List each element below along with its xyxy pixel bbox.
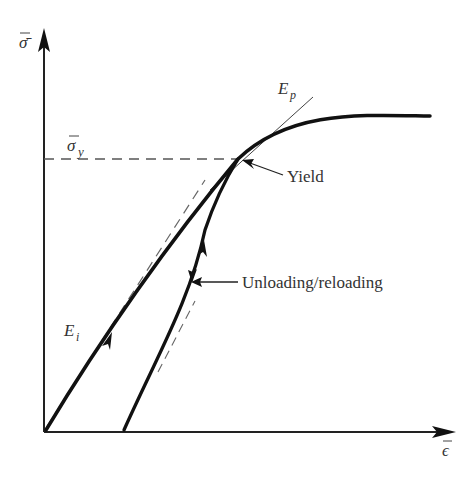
- ep-label: E p: [277, 79, 296, 102]
- x-axis-label: ϵ: [442, 441, 452, 460]
- unloading-reloading-curve: [124, 159, 238, 430]
- unloading-label: Unloading/reloading: [242, 273, 383, 292]
- svg-text:y: y: [76, 144, 84, 159]
- sigma-y-label: σ y: [67, 136, 84, 159]
- yield-label: Yield: [287, 167, 324, 186]
- svg-text:σ̄: σ̄: [19, 33, 32, 52]
- svg-text:i: i: [76, 330, 79, 344]
- svg-text:ϵ: ϵ: [442, 441, 450, 460]
- y-axis-label: σ̄: [19, 33, 32, 52]
- stress-strain-diagram: σ̄ ϵ σ y E p E i Yield Unloading/reloadi…: [0, 0, 464, 477]
- svg-text:p: p: [289, 88, 296, 102]
- unloading-tangent-dashed-line: [158, 301, 195, 372]
- svg-text:E: E: [63, 321, 75, 340]
- svg-text:E: E: [277, 79, 289, 98]
- svg-text:σ: σ: [67, 136, 76, 155]
- ei-label: E i: [63, 321, 79, 344]
- yield-pointer-line: [250, 163, 283, 175]
- axes: [38, 28, 456, 438]
